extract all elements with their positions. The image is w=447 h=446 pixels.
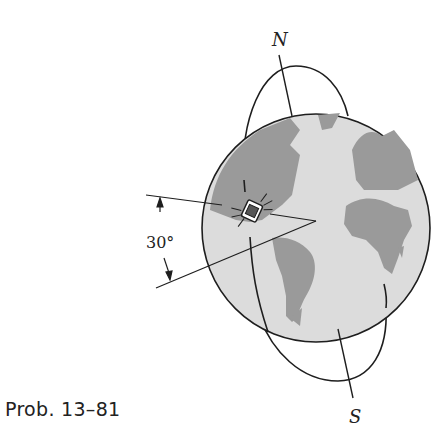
figure: N S 30° Prob. 13–81 <box>0 0 447 446</box>
figure-caption: Prob. 13–81 <box>5 398 120 420</box>
north-label: N <box>271 29 289 50</box>
earth-globe <box>202 113 430 342</box>
angle-label: 30° <box>146 233 174 252</box>
europe-landmass <box>352 130 418 190</box>
diagram-svg: N S 30° <box>0 0 447 446</box>
south-label: S <box>349 406 361 427</box>
